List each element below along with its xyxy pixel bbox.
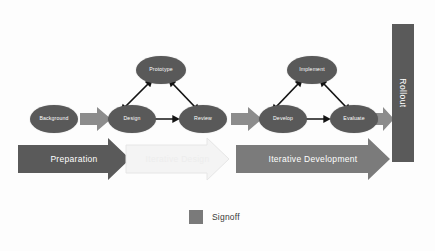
node-label-design: Design — [123, 116, 140, 121]
arrow-develop-implement — [276, 84, 298, 107]
banner-preparation: Preparation — [18, 145, 130, 173]
node-label-prototype: Prototype — [149, 67, 173, 72]
diagram-canvas: Preparation Iterative Design Iterative D… — [0, 0, 435, 251]
legend-swatch-signoff — [189, 210, 203, 224]
legend-label-signoff: Signoff — [212, 212, 240, 222]
connector-arrow-review-to-develop — [231, 107, 262, 131]
banner-iterative-design: Iterative Design — [126, 145, 229, 173]
node-background[interactable]: Background — [30, 105, 78, 133]
rollout-bar[interactable]: Rollout — [392, 24, 414, 162]
node-implement[interactable]: Implement — [287, 56, 337, 84]
node-label-implement: Implement — [299, 67, 325, 72]
connector-arrow-background-to-design — [80, 107, 111, 131]
node-label-review: Review — [194, 116, 212, 121]
node-design[interactable]: Design — [108, 105, 156, 133]
node-label-background: Background — [39, 116, 68, 121]
legend: Signoff — [189, 210, 240, 224]
node-prototype[interactable]: Prototype — [136, 56, 186, 84]
arrow-prototype-review — [173, 84, 195, 107]
banner-label-preparation: Preparation — [18, 154, 130, 164]
banner-label-iterative-development: Iterative Development — [236, 154, 390, 164]
arrow-design-prototype — [125, 84, 148, 107]
rollout-label: Rollout — [398, 78, 408, 107]
node-label-evaluate: Evaluate — [343, 116, 364, 121]
node-evaluate[interactable]: Evaluate — [330, 105, 378, 133]
node-develop[interactable]: Develop — [259, 105, 307, 133]
banner-label-iterative-design: Iterative Design — [126, 154, 229, 164]
node-label-develop: Develop — [273, 116, 293, 121]
arrow-implement-evaluate — [324, 84, 346, 107]
node-review[interactable]: Review — [179, 105, 227, 133]
banner-iterative-development: Iterative Development — [236, 145, 390, 173]
